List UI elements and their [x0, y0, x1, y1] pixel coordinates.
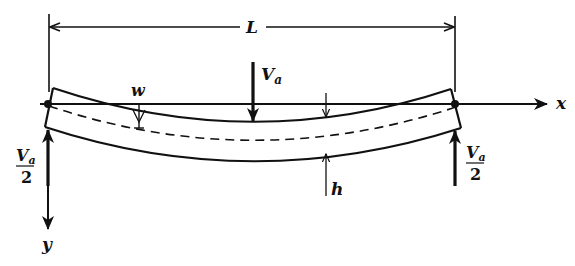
- thickness-indicator: h: [326, 93, 343, 199]
- left-reaction-label-num: Va: [16, 146, 36, 167]
- load-label: Va: [261, 64, 282, 87]
- pin-support-left: [44, 100, 52, 108]
- beam-bottom-surface: [45, 127, 461, 161]
- left-reaction-label-den: 2: [21, 168, 32, 187]
- x-axis-label: x: [555, 93, 567, 113]
- right-reaction-label-num: Va: [466, 143, 486, 164]
- right-reaction-label-den: 2: [470, 165, 481, 184]
- right-reaction: Va 2: [455, 131, 486, 186]
- pin-support-right: [451, 100, 459, 108]
- y-axis: y: [41, 130, 53, 254]
- y-axis-label: y: [41, 234, 53, 254]
- left-reaction: Va 2: [16, 130, 48, 187]
- span-label: L: [245, 17, 258, 37]
- x-axis: x: [40, 93, 567, 113]
- deflection-label: w: [131, 81, 146, 100]
- thickness-label: h: [331, 179, 343, 199]
- beam-diagram: L x Va w h: [0, 0, 575, 266]
- applied-load: Va: [253, 62, 282, 121]
